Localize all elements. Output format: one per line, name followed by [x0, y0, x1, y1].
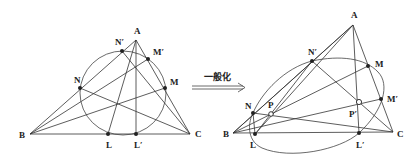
right-label-L: L: [250, 140, 256, 150]
right-point-M: [366, 64, 370, 68]
right-label-P: P: [268, 100, 274, 110]
left-point-Nprime: [120, 49, 124, 53]
right-label-M: M: [375, 59, 384, 69]
right-point-Mprime: [379, 97, 383, 101]
right-label-Nprime: N′: [308, 47, 317, 57]
right-label-Lprime: L′: [356, 140, 365, 150]
right-segment-N-L: [253, 113, 255, 134]
diagram-canvas: A B C N′ M′ N M L L′ 一般化: [0, 0, 417, 166]
left-label-Mprime: M′: [153, 47, 164, 57]
right-point-P: [269, 112, 274, 117]
right-figure: A B C N′ M M′ N P P′ L L′: [223, 10, 404, 153]
left-point-Mprime: [146, 57, 150, 61]
left-cevian-A-L: [108, 40, 136, 134]
generalization-arrow: 一般化: [192, 71, 245, 92]
arrow-head-icon: [238, 83, 245, 92]
left-figure: A B C N′ M′ N M L L′: [19, 26, 202, 150]
right-label-Pprime: P′: [349, 109, 357, 119]
left-point-M: [163, 86, 167, 90]
arrow-label: 一般化: [204, 71, 231, 82]
right-side-B-A: [233, 25, 353, 133]
right-point-L: [253, 132, 257, 136]
left-point-L: [106, 132, 110, 136]
left-point-Lprime: [134, 132, 138, 136]
right-point-Lprime: [357, 131, 361, 135]
left-label-A: A: [134, 26, 141, 36]
left-label-M: M: [170, 77, 179, 87]
left-point-N: [78, 86, 82, 90]
right-label-A: A: [351, 10, 358, 20]
left-label-L: L: [106, 140, 112, 150]
right-label-N: N: [245, 101, 252, 111]
right-label-B: B: [223, 129, 229, 139]
left-label-N: N: [74, 75, 81, 85]
right-label-Mprime: M′: [387, 94, 398, 104]
right-cevian-A-L: [255, 25, 353, 134]
right-point-N: [251, 111, 255, 115]
right-triangle: [233, 25, 393, 133]
left-label-B: B: [19, 130, 25, 140]
left-label-Nprime: N′: [115, 37, 124, 47]
left-cevian-B-Mprime: [30, 59, 148, 134]
right-point-Nprime: [310, 59, 314, 63]
right-cevian-C-Nprime: [312, 61, 393, 132]
right-point-Pprime: [356, 99, 361, 104]
left-label-C: C: [195, 129, 202, 139]
right-cevian-C-N: [253, 113, 393, 132]
left-label-Lprime: L′: [134, 140, 143, 150]
right-segment-Nprime-L: [256, 61, 312, 133]
right-label-C: C: [397, 129, 404, 139]
left-cevian-C-Nprime: [122, 51, 190, 134]
